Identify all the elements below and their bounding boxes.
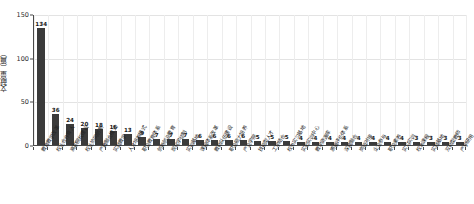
- y-tick-label: 150: [9, 11, 29, 19]
- gridline-vertical: [178, 15, 179, 145]
- bar-value-label: 13: [124, 127, 132, 133]
- gridline-vertical: [279, 15, 280, 145]
- gridline-vertical: [48, 15, 49, 145]
- x-tick-mark: [33, 147, 34, 150]
- y-tick-label: 100: [9, 55, 29, 63]
- gridline-vertical: [337, 15, 338, 145]
- gridline-vertical: [294, 15, 295, 145]
- gridline-vertical: [106, 15, 107, 145]
- gridline-vertical: [236, 15, 237, 145]
- gridline-vertical: [265, 15, 266, 145]
- gridline-vertical: [135, 15, 136, 145]
- bar-value-label: 36: [52, 107, 60, 113]
- bar: [37, 28, 45, 145]
- y-tick-label: 0: [9, 142, 29, 150]
- gridline-vertical: [63, 15, 64, 145]
- gridline-vertical: [92, 15, 93, 145]
- gridline-vertical: [164, 15, 165, 145]
- gridline-vertical: [380, 15, 381, 145]
- gridline-vertical: [453, 15, 454, 145]
- gridline-vertical: [34, 15, 35, 145]
- gridline-vertical: [395, 15, 396, 145]
- gridline-vertical: [251, 15, 252, 145]
- gridline-vertical: [323, 15, 324, 145]
- gridline-vertical: [352, 15, 353, 145]
- gridline-vertical: [409, 15, 410, 145]
- bar-value-label: 134: [35, 21, 47, 27]
- gridline-vertical: [438, 15, 439, 145]
- gridline-vertical: [207, 15, 208, 145]
- gridline-vertical: [77, 15, 78, 145]
- gridline-vertical: [222, 15, 223, 145]
- gridline-vertical: [149, 15, 150, 145]
- bar-value-label: 24: [66, 117, 74, 123]
- gridline-vertical: [424, 15, 425, 145]
- gridline-vertical: [466, 15, 467, 145]
- y-tick-label: 50: [9, 98, 29, 106]
- gridline-vertical: [366, 15, 367, 145]
- gridline-vertical: [121, 15, 122, 145]
- gridline-vertical: [193, 15, 194, 145]
- gridline-vertical: [308, 15, 309, 145]
